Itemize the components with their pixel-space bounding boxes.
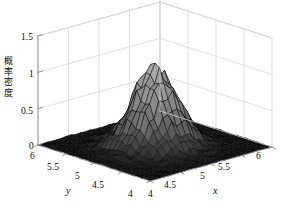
x-tick-mark — [150, 181, 153, 183]
y-tick-mark — [63, 154, 66, 156]
z-axis-label-char-1: 概 — [2, 56, 15, 67]
x-tick-label-2: 5 — [200, 172, 205, 182]
x-tick-mark — [211, 164, 214, 166]
y-tick-label-3: 4.5 — [92, 181, 104, 191]
z-axis-label-char-3: 密 — [2, 77, 15, 88]
x-tick-label-1: 4.5 — [164, 181, 176, 191]
y-tick-mark — [35, 145, 38, 147]
z-tick-label-1: 1 — [29, 70, 34, 80]
x-tick-label-3: 5.5 — [218, 163, 230, 173]
z-axis-label-char-2: 率 — [2, 67, 15, 78]
y-axis-label: y — [66, 186, 70, 196]
surface-plot-svg — [0, 0, 290, 213]
z-axis-label: 概 率 密 度 — [2, 56, 15, 98]
z-tick-label-0: 1.5 — [21, 33, 33, 43]
y-tick-mark — [91, 163, 94, 165]
z-tick-label-2: 0.5 — [21, 107, 33, 117]
x-tick-label-4: 6 — [256, 152, 261, 162]
y-tick-label-2: 5 — [75, 172, 80, 182]
y-tick-label-1: 5.5 — [47, 163, 59, 173]
z-axis-label-char-4: 度 — [2, 88, 15, 99]
y-tick-mark — [119, 172, 122, 174]
y-tick-label-0: 6 — [30, 152, 35, 162]
x-axis-label: x — [213, 186, 217, 196]
x-tick-mark — [181, 173, 184, 175]
x-tick-mark — [272, 147, 275, 149]
x-tick-label-0: 4 — [148, 190, 153, 200]
x-tick-mark — [242, 156, 245, 158]
figure-canvas: 概 率 密 度 1.510.5065.554.5444.555.56xy — [0, 0, 290, 213]
y-tick-label-4: 4 — [128, 190, 133, 200]
